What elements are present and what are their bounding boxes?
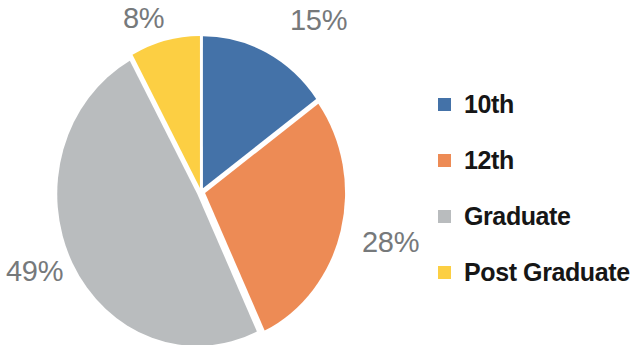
legend-item-post-graduate[interactable]: Post Graduate [438, 256, 630, 288]
legend-item-graduate[interactable]: Graduate [438, 200, 571, 232]
legend-swatch-icon-10th [438, 98, 451, 111]
chart-legend: 10th 12th Graduate Post Graduate [438, 88, 634, 300]
legend-swatch-icon-post-graduate [438, 266, 451, 279]
legend-label-post-graduate: Post Graduate [464, 260, 630, 285]
pie-slices [57, 36, 345, 345]
legend-swatch-icon-12th [438, 154, 451, 167]
pie-svg [0, 0, 430, 345]
legend-label-12th: 12th [464, 148, 514, 173]
legend-label-10th: 10th [464, 92, 514, 117]
legend-label-graduate: Graduate [464, 204, 571, 229]
data-label-post-graduate: 8% [123, 4, 164, 33]
data-label-10th: 15% [290, 6, 347, 35]
data-label-12th: 28% [362, 228, 419, 257]
legend-item-10th[interactable]: 10th [438, 88, 514, 120]
legend-swatch-icon-graduate [438, 210, 451, 223]
pie-plot-area [0, 0, 430, 339]
legend-item-12th[interactable]: 12th [438, 144, 514, 176]
data-label-graduate: 49% [6, 257, 63, 286]
